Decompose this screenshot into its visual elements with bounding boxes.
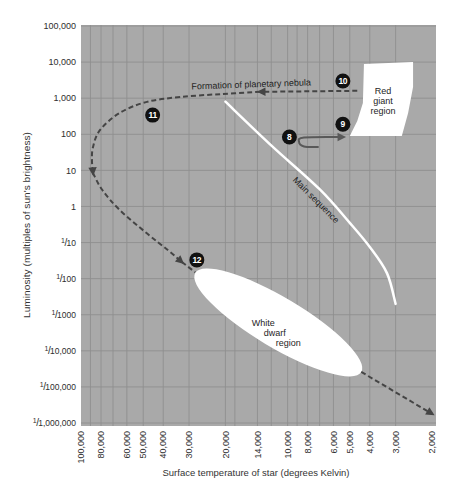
region-label: White bbox=[252, 318, 275, 328]
fraction-denominator: 1,000,000 bbox=[38, 418, 76, 428]
x-tick-label: 8,000 bbox=[303, 431, 313, 454]
x-axis-ticks: 100,00080,00060,00050,00040,00030,00020,… bbox=[76, 431, 437, 464]
x-tick-label: 2,000 bbox=[427, 431, 437, 454]
marker-number: 9 bbox=[341, 119, 346, 129]
region-label: giant bbox=[373, 96, 393, 106]
fraction-denominator: 1000 bbox=[57, 310, 76, 320]
x-tick-label: 50,000 bbox=[138, 431, 148, 459]
x-tick-label: 6,000 bbox=[329, 431, 339, 454]
y-tick-label: 1 bbox=[71, 202, 76, 212]
hr-diagram-chart: RedgiantregionWhitedwarfregion 89101112 … bbox=[0, 0, 458, 497]
x-tick-label: 80,000 bbox=[96, 431, 106, 459]
marker-number: 12 bbox=[193, 255, 202, 265]
x-tick-label: 60,000 bbox=[122, 431, 132, 459]
y-axis-title: Luminosity (multiples of sun's brightnes… bbox=[21, 132, 32, 318]
stage-marker-12: 12 bbox=[189, 252, 204, 267]
y-axis-ticks: 100,00010,0001,0001001011/101/1001/10001… bbox=[33, 21, 77, 428]
x-tick-label: 14,000 bbox=[253, 431, 263, 459]
y-tick-label: 1,000 bbox=[53, 93, 76, 103]
y-tick-label: 10,000 bbox=[48, 57, 76, 67]
region-label: region bbox=[276, 338, 301, 348]
region-label: region bbox=[371, 106, 396, 116]
region-label: dwarf bbox=[264, 328, 287, 338]
fraction-denominator: 100,000 bbox=[45, 382, 76, 392]
marker-number: 10 bbox=[339, 76, 348, 86]
stage-marker-10: 10 bbox=[335, 73, 350, 88]
y-tick-label: 1/10 bbox=[61, 237, 76, 248]
fraction-denominator: 10 bbox=[67, 238, 77, 248]
y-tick-label: 1/10,000 bbox=[45, 345, 77, 356]
x-tick-label: 100,000 bbox=[76, 431, 86, 464]
y-tick-label: 10 bbox=[66, 166, 76, 176]
x-tick-label: 20,000 bbox=[221, 431, 231, 459]
marker-number: 11 bbox=[149, 110, 158, 120]
x-tick-label: 30,000 bbox=[184, 431, 194, 459]
y-tick-label: 1/1000 bbox=[52, 309, 77, 320]
x-tick-label: 5,000 bbox=[345, 431, 355, 454]
fraction-denominator: 100 bbox=[62, 274, 76, 284]
y-tick-label: 1/100,000 bbox=[40, 381, 76, 392]
stage-marker-11: 11 bbox=[145, 108, 160, 123]
x-axis-title: Surface temperature of star (degrees Kel… bbox=[163, 467, 350, 478]
y-tick-label: 100 bbox=[61, 129, 76, 139]
y-tick-label: 1/1,000,000 bbox=[33, 417, 77, 428]
fraction-denominator: 10,000 bbox=[50, 346, 76, 356]
hr-diagram-figure: RedgiantregionWhitedwarfregion 89101112 … bbox=[0, 0, 458, 497]
x-tick-label: 40,000 bbox=[158, 431, 168, 459]
y-tick-label: 100,000 bbox=[43, 21, 76, 31]
stage-marker-9: 9 bbox=[335, 117, 350, 132]
region-label: Red bbox=[375, 86, 392, 96]
marker-number: 8 bbox=[287, 132, 292, 142]
y-tick-label: 1/100 bbox=[56, 273, 76, 284]
x-tick-label: 3,000 bbox=[391, 431, 401, 454]
x-tick-label: 10,000 bbox=[283, 431, 293, 459]
x-tick-label: 4,000 bbox=[365, 431, 375, 454]
stage-marker-8: 8 bbox=[282, 130, 297, 145]
